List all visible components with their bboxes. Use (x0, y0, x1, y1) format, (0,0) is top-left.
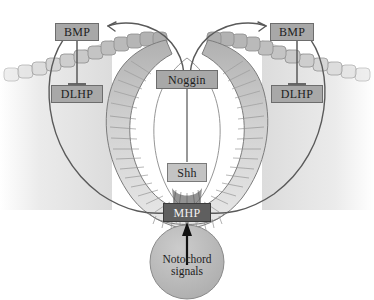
label-notochord-signals[interactable]: Notochord signals (143, 251, 231, 281)
notochord-line-2: signals (171, 266, 203, 278)
label-bmp-left[interactable]: BMP (55, 23, 99, 41)
label-noggin[interactable]: Noggin (156, 70, 218, 89)
label-bmp-right[interactable]: BMP (270, 23, 314, 41)
label-dlhp-left[interactable]: DLHP (51, 85, 103, 103)
label-dlhp-right-text: DLHP (281, 88, 314, 100)
label-dlhp-left-text: DLHP (61, 88, 94, 100)
label-dlhp-right[interactable]: DLHP (271, 85, 323, 103)
label-mhp-text: MHP (174, 207, 201, 219)
label-bmp-left-text: BMP (64, 26, 90, 38)
label-bmp-right-text: BMP (279, 26, 305, 38)
label-shh-text: Shh (177, 167, 197, 179)
label-noggin-text: Noggin (168, 74, 206, 86)
label-shh[interactable]: Shh (167, 163, 207, 182)
label-mhp[interactable]: MHP (163, 203, 211, 222)
neural-tube-diagram: BMP BMP DLHP DLHP Noggin Shh MHP Notocho… (0, 0, 374, 300)
